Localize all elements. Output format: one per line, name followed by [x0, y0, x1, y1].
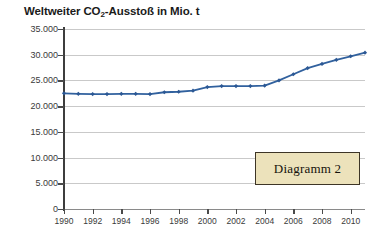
- y-axis-tick: [58, 55, 64, 56]
- x-axis-tick: [236, 209, 237, 214]
- series-marker: [76, 92, 80, 96]
- y-axis-tick: [58, 106, 64, 107]
- x-axis-tick-label: 2000: [198, 216, 217, 226]
- x-axis-tick: [293, 209, 294, 214]
- series-polyline: [64, 53, 365, 94]
- y-axis-tick: [58, 29, 64, 30]
- x-axis-tick: [150, 209, 151, 214]
- series-marker: [119, 92, 123, 96]
- x-axis-tick-label: 1992: [83, 216, 102, 226]
- x-axis-tick: [93, 209, 94, 214]
- series-marker: [162, 90, 166, 94]
- series-marker: [220, 84, 224, 88]
- x-axis-tick: [265, 209, 266, 214]
- chart-container: Weltweiter CO2-Ausstoß in Mio. t 05.0001…: [0, 0, 372, 238]
- x-axis-tick: [322, 209, 323, 214]
- x-axis-tick-label: 2004: [255, 216, 274, 226]
- y-axis-tick: [58, 158, 64, 159]
- y-axis-tick: [58, 132, 64, 133]
- series-marker: [134, 92, 138, 96]
- x-axis-tick: [179, 209, 180, 214]
- series-marker: [234, 84, 238, 88]
- x-axis-tick-label: 2002: [227, 216, 246, 226]
- series-marker: [105, 92, 109, 96]
- series-marker: [91, 92, 95, 96]
- series-marker: [320, 62, 324, 66]
- y-axis-tick: [58, 80, 64, 81]
- series-marker: [148, 92, 152, 96]
- x-axis-tick-label: 2006: [284, 216, 303, 226]
- x-axis-tick-label: 1994: [112, 216, 131, 226]
- annotation-text: Diagramm 2: [274, 161, 341, 177]
- x-axis-tick: [207, 209, 208, 214]
- x-axis-tick-label: 1990: [55, 216, 74, 226]
- x-axis-tick-label: 2010: [341, 216, 360, 226]
- series-marker: [205, 85, 209, 89]
- x-axis-tick-label: 1996: [141, 216, 160, 226]
- x-axis-tick: [64, 209, 65, 214]
- series-marker: [334, 58, 338, 62]
- x-axis-tick-label: 1998: [169, 216, 188, 226]
- annotation-diagramm-label: Diagramm 2: [255, 152, 360, 185]
- x-axis-tick: [351, 209, 352, 214]
- series-marker: [177, 90, 181, 94]
- series-marker: [248, 84, 252, 88]
- y-axis-tick: [58, 209, 64, 210]
- y-axis-tick: [58, 183, 64, 184]
- series-marker: [349, 54, 353, 58]
- x-axis-tick-label: 2008: [313, 216, 332, 226]
- x-axis-tick: [121, 209, 122, 214]
- series-marker: [191, 89, 195, 93]
